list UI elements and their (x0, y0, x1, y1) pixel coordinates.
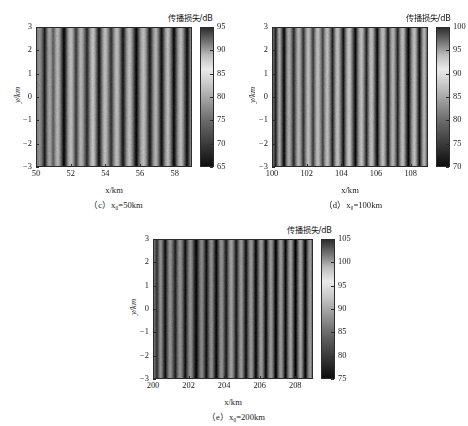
colorbar-tick-mark (331, 309, 334, 310)
x-tick-label: 202 (174, 381, 204, 390)
y-tick-label: 1 (127, 281, 149, 290)
x-tick-mark (295, 376, 296, 379)
colorbar-tick-mark (210, 27, 213, 28)
y-tick-mark (153, 356, 156, 357)
y-tick-mark (153, 286, 156, 287)
colorbar-tick-label: 90 (338, 304, 346, 313)
x-tick-mark (307, 164, 308, 167)
colorbar-tick-mark (210, 167, 213, 168)
y-tick-label: −1 (127, 327, 149, 336)
colorbar-tick-label: 95 (453, 45, 461, 54)
colorbar-tick-label: 105 (338, 234, 351, 243)
colorbar-tick-mark (331, 379, 334, 380)
colorbar-tick-label: 75 (453, 139, 461, 148)
colorbar-tick-label: 80 (453, 115, 461, 124)
x-tick-label: 204 (209, 381, 239, 390)
caption-e: （e）x₀=200km (133, 410, 339, 422)
colorbar-tick-mark (446, 74, 449, 75)
x-axis-label-d: x/km (272, 185, 428, 195)
x-tick-label: 206 (245, 381, 275, 390)
x-tick-mark (260, 376, 261, 379)
y-tick-mark (153, 239, 156, 240)
y-tick-mark (153, 332, 156, 333)
y-tick-mark (36, 167, 39, 168)
y-tick-label: 1 (246, 69, 268, 78)
heatmap-e (153, 239, 313, 379)
colorbar-tick-mark (210, 97, 213, 98)
colorbar-tick-label: 75 (217, 115, 225, 124)
y-tick-mark (36, 120, 39, 121)
x-axis-label-e: x/km (153, 397, 313, 407)
y-tick-label: −1 (10, 115, 32, 124)
y-tick-label: −2 (246, 139, 268, 148)
colorbar-tick-label: 95 (217, 22, 225, 31)
x-tick-label: 56 (125, 169, 155, 178)
colorbar-tick-mark (446, 27, 449, 28)
colorbar-tick-mark (446, 120, 449, 121)
heatmap-canvas-e (154, 240, 312, 378)
colorbar-tick-label: 90 (453, 69, 461, 78)
y-tick-label: 2 (246, 45, 268, 54)
colorbar-title-c: 传播损失/dB (168, 13, 213, 23)
y-tick-label: −3 (127, 374, 149, 383)
y-tick-mark (272, 50, 275, 51)
colorbar-tick-mark (210, 120, 213, 121)
x-tick-mark (140, 164, 141, 167)
y-tick-label: 2 (127, 257, 149, 266)
heatmap-c (36, 27, 192, 167)
x-tick-mark (105, 164, 106, 167)
colorbar-tick-label: 85 (453, 92, 461, 101)
y-tick-label: −1 (246, 115, 268, 124)
caption-d: （d）x₀=100km (250, 198, 456, 210)
y-tick-label: 2 (10, 45, 32, 54)
y-tick-label: 3 (246, 22, 268, 31)
x-tick-label: 58 (160, 169, 190, 178)
x-tick-label: 54 (90, 169, 120, 178)
y-tick-mark (153, 309, 156, 310)
colorbar-tick-mark (331, 286, 334, 287)
colorbar-tick-label: 95 (338, 281, 346, 290)
x-tick-mark (224, 376, 225, 379)
x-tick-mark (376, 164, 377, 167)
y-tick-mark (153, 379, 156, 380)
colorbar-tick-label: 100 (453, 22, 466, 31)
panel-d: 传播损失/dB y/km x/km （d）x₀=100km 1001021041… (234, 0, 468, 213)
colorbar-tick-label: 80 (217, 92, 225, 101)
colorbar-tick-label: 70 (453, 162, 461, 171)
y-tick-mark (153, 262, 156, 263)
colorbar-tick-label: 80 (338, 351, 346, 360)
x-tick-label: 106 (361, 169, 391, 178)
colorbar-tick-mark (446, 144, 449, 145)
heatmap-canvas-c (37, 28, 191, 166)
colorbar-tick-label: 85 (217, 69, 225, 78)
colorbar-tick-mark (331, 239, 334, 240)
y-tick-label: 0 (127, 304, 149, 313)
x-tick-label: 104 (326, 169, 356, 178)
y-tick-label: 3 (127, 234, 149, 243)
colorbar-tick-mark (446, 50, 449, 51)
y-tick-label: 1 (10, 69, 32, 78)
y-tick-label: −2 (127, 351, 149, 360)
x-tick-mark (71, 164, 72, 167)
y-tick-label: 0 (10, 92, 32, 101)
x-tick-label: 102 (292, 169, 322, 178)
colorbar-tick-mark (210, 50, 213, 51)
colorbar-tick-mark (210, 144, 213, 145)
y-tick-mark (272, 74, 275, 75)
x-tick-mark (411, 164, 412, 167)
y-tick-mark (272, 167, 275, 168)
y-tick-label: 3 (10, 22, 32, 31)
panel-c: 传播损失/dB y/km x/km （c）x₀=50km 50525456583… (0, 0, 234, 213)
colorbar-tick-mark (446, 167, 449, 168)
y-tick-mark (36, 74, 39, 75)
colorbar-tick-mark (331, 332, 334, 333)
colorbar-tick-mark (210, 74, 213, 75)
heatmap-d (272, 27, 428, 167)
y-tick-label: 0 (246, 92, 268, 101)
figure-root: 传播损失/dB y/km x/km （c）x₀=50km 50525456583… (0, 0, 468, 426)
colorbar-tick-label: 85 (338, 327, 346, 336)
caption-c: （c）x₀=50km (16, 198, 216, 210)
y-tick-mark (36, 27, 39, 28)
y-tick-mark (36, 144, 39, 145)
x-tick-mark (175, 164, 176, 167)
